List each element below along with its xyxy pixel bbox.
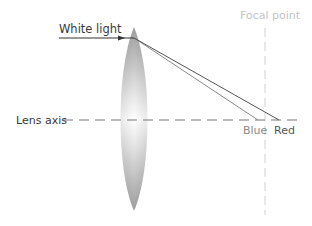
blue-ray [134,38,258,120]
lens-axis-label: Lens axis [16,115,67,126]
red-label: Red [274,125,295,136]
red-ray [134,38,279,120]
lens-diagram [0,0,312,226]
arrow-head-icon [118,36,125,41]
blue-label: Blue [243,125,267,136]
focal-point-label: Focal point [240,10,300,21]
white-light-label: White light [59,24,122,36]
